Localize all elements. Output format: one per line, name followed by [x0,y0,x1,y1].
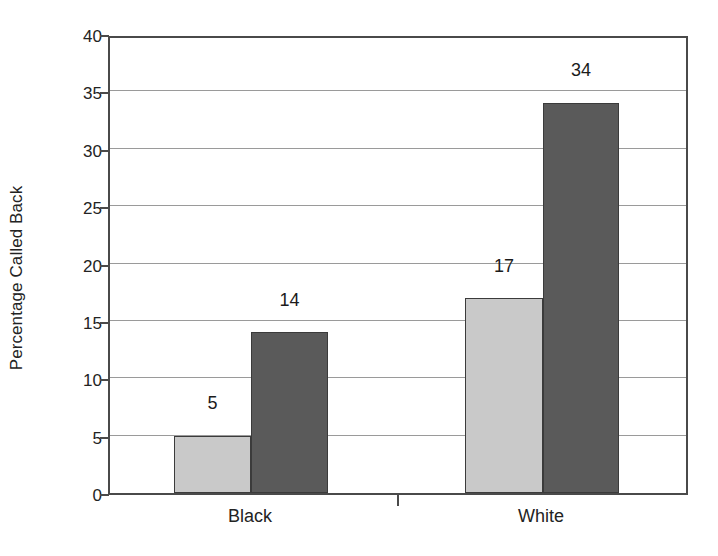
bar-value-black-light: 5 [207,394,217,412]
y-axis-tick-marks [0,36,110,495]
bar-black-light[interactable] [174,436,251,493]
gridline-40 [110,37,686,38]
bar-white-dark[interactable] [543,103,619,493]
x-tick-mark-category-divider [397,495,399,506]
bar-value-white-dark: 34 [571,61,591,79]
gridline-35 [110,90,686,91]
bar-black-dark[interactable] [251,332,328,493]
plot-area: 5 14 17 34 [108,36,688,495]
x-category-label-white: White [518,506,564,527]
bar-value-white-light: 17 [494,257,514,275]
bar-white-light[interactable] [465,298,543,493]
bar-value-black-dark: 14 [279,291,299,309]
x-category-label-black: Black [228,506,272,527]
bar-chart: Percentage Called Back 0 5 10 15 20 25 3… [0,0,718,556]
